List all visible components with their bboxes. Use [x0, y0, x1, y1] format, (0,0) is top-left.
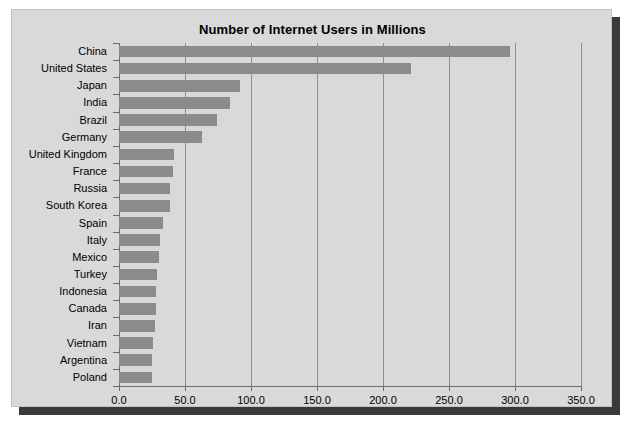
x-axis-tick-label: 200.0 — [353, 394, 413, 406]
bar — [119, 269, 157, 281]
y-axis-tick-label: Japan — [12, 77, 113, 94]
bar-row — [119, 215, 581, 232]
x-axis-tick-mark — [119, 386, 120, 391]
bar-row — [119, 335, 581, 352]
x-axis-tick-mark — [185, 386, 186, 391]
bar — [119, 234, 160, 246]
y-axis-tick-label: Germany — [12, 129, 113, 146]
bar — [119, 149, 174, 161]
plot-area — [119, 43, 581, 386]
x-axis-tick-mark — [581, 386, 582, 391]
bar-row — [119, 180, 581, 197]
y-axis-tick-label: Iran — [12, 317, 113, 334]
y-axis-tick-label: India — [12, 94, 113, 111]
bar — [119, 97, 230, 109]
bar — [119, 46, 510, 58]
bar-row — [119, 249, 581, 266]
bar — [119, 354, 152, 366]
y-axis-tick-label: United States — [12, 60, 113, 77]
bar — [119, 80, 240, 92]
bar-row — [119, 197, 581, 214]
bar — [119, 183, 170, 195]
bar-row — [119, 369, 581, 386]
bar — [119, 303, 156, 315]
y-axis-tick-label: France — [12, 163, 113, 180]
x-axis-tick-mark — [449, 386, 450, 391]
x-axis-tick-label: 350.0 — [551, 394, 611, 406]
y-axis-tick-label: Indonesia — [12, 283, 113, 300]
bar — [119, 372, 152, 384]
screenshot-root: Number of Internet Users in Millions Chi… — [0, 0, 632, 432]
x-axis-tick-mark — [383, 386, 384, 391]
bar-row — [119, 266, 581, 283]
y-axis-tick-label: Poland — [12, 369, 113, 386]
bar-row — [119, 112, 581, 129]
y-axis-tick-label: Russia — [12, 180, 113, 197]
x-axis-tick-mark — [251, 386, 252, 391]
bar-row — [119, 352, 581, 369]
bar-row — [119, 163, 581, 180]
x-axis-tick-mark — [317, 386, 318, 391]
bar-row — [119, 94, 581, 111]
y-axis-tick-label: Vietnam — [12, 335, 113, 352]
x-axis-line — [119, 386, 582, 387]
gridline-350.0 — [581, 43, 582, 386]
bar — [119, 114, 217, 126]
x-axis-tick-label: 300.0 — [485, 394, 545, 406]
x-axis-tick-mark — [515, 386, 516, 391]
bar — [119, 166, 173, 178]
bar-row — [119, 283, 581, 300]
bar — [119, 131, 202, 143]
bar — [119, 251, 159, 263]
chart-panel: Number of Internet Users in Millions Chi… — [11, 9, 612, 407]
bar — [119, 63, 411, 75]
y-axis-tick-label: United Kingdom — [12, 146, 113, 163]
bar-row — [119, 60, 581, 77]
y-axis-tick-label: Spain — [12, 215, 113, 232]
bar-row — [119, 317, 581, 334]
bar-row — [119, 146, 581, 163]
bar-row — [119, 300, 581, 317]
y-axis-tick-label: Turkey — [12, 266, 113, 283]
bar-row — [119, 129, 581, 146]
y-axis-tick-label: Argentina — [12, 352, 113, 369]
y-axis-tick-label: Mexico — [12, 249, 113, 266]
bar — [119, 217, 163, 229]
x-axis-tick-label: 100.0 — [221, 394, 281, 406]
y-axis-tick-label: Italy — [12, 232, 113, 249]
x-axis-tick-label: 250.0 — [419, 394, 479, 406]
y-axis-tick-label: Canada — [12, 300, 113, 317]
x-axis-tick-label: 0.0 — [89, 394, 149, 406]
bar — [119, 337, 153, 349]
y-axis-tick-label: China — [12, 43, 113, 60]
bar-row — [119, 43, 581, 60]
bar — [119, 320, 155, 332]
x-axis-tick-label: 50.0 — [155, 394, 215, 406]
chart-title: Number of Internet Users in Millions — [12, 22, 612, 37]
y-axis-tick-label: South Korea — [12, 197, 113, 214]
bar — [119, 200, 170, 212]
y-axis-tick-label: Brazil — [12, 112, 113, 129]
bar — [119, 286, 156, 298]
x-axis-tick-label: 150.0 — [287, 394, 347, 406]
bar-row — [119, 232, 581, 249]
bar-row — [119, 77, 581, 94]
